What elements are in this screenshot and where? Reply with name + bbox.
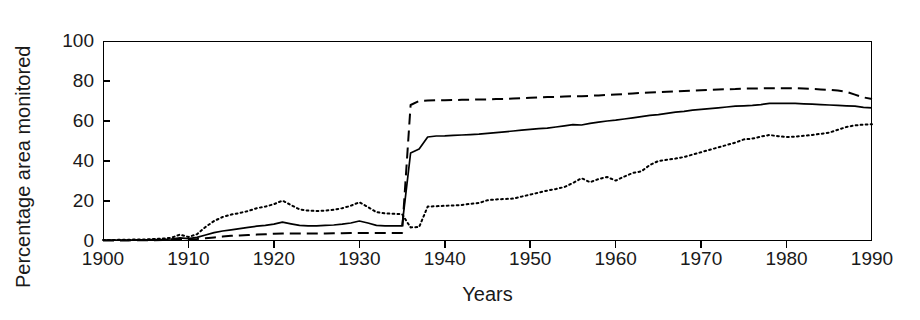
x-tick-mark (188, 241, 190, 248)
x-tick-label: 1990 (832, 248, 912, 270)
y-tick-label: 20 (44, 191, 94, 210)
x-tick-label: 1930 (319, 248, 399, 270)
y-axis-label: Percentage area monitored (4, 48, 42, 288)
y-tick-label-text: 100 (48, 31, 94, 50)
x-tick-mark (444, 241, 446, 248)
series-dashed-line (103, 88, 872, 240)
x-tick-mark (359, 241, 361, 248)
x-tick-label: 1980 (747, 248, 827, 270)
y-tick-label: 60 (44, 111, 94, 130)
x-axis-label: Years (103, 283, 872, 306)
x-tick-label: 1910 (148, 248, 228, 270)
y-tick-label-text: 80 (48, 71, 94, 90)
x-tick-label: 1960 (576, 248, 656, 270)
y-tick-label-text: 40 (48, 151, 94, 170)
y-tick-label-text: 20 (48, 191, 94, 210)
series-dotted-line (103, 124, 872, 240)
chart-figure: Percentage area monitored 020406080100 1… (0, 0, 920, 320)
x-tick-label: 1970 (661, 248, 741, 270)
x-tick-mark (786, 241, 788, 248)
x-tick-mark (700, 241, 702, 248)
y-tick-label: 80 (44, 71, 94, 90)
x-tick-label: 1950 (490, 248, 570, 270)
x-tick-mark (615, 241, 617, 248)
x-tick-mark (529, 241, 531, 248)
x-tick-mark (273, 241, 275, 248)
y-tick-label-text: 60 (48, 111, 94, 130)
x-tick-label: 1920 (234, 248, 314, 270)
data-lines (103, 41, 872, 241)
y-tick-label: 40 (44, 151, 94, 170)
x-tick-label: 1940 (405, 248, 485, 270)
x-tick-label: 1900 (63, 248, 143, 270)
y-tick-label: 100 (44, 31, 94, 50)
